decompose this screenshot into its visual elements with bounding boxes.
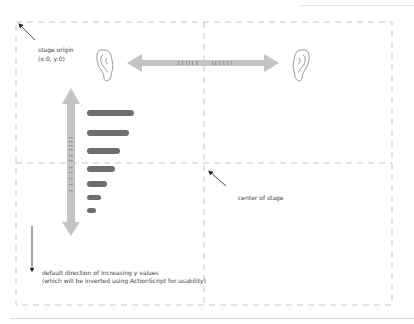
right-ear-icon <box>293 50 309 81</box>
center-pointer-arrow-icon <box>210 172 226 186</box>
volume-double-arrow-icon <box>62 88 80 236</box>
stage-origin-coords-label: (x:0, y:0) <box>38 55 65 63</box>
stage-origin-label: stage origin <box>38 46 74 54</box>
center-of-stage-label: center of stage <box>238 194 284 202</box>
y-direction-note-label: (which will be inverted using ActionScri… <box>42 277 206 285</box>
volume-bar <box>87 181 107 187</box>
volume-bar <box>87 130 129 136</box>
volume-bar <box>87 166 115 172</box>
volume-bar <box>87 148 120 154</box>
volume-bar <box>87 110 134 116</box>
left-ear-icon <box>97 50 113 81</box>
volume-bar <box>87 208 96 213</box>
volume-bars <box>87 110 134 213</box>
pan-double-arrow-icon <box>127 54 279 72</box>
y-direction-label: default direction of increasing y values <box>42 269 159 277</box>
volume-bar <box>87 195 101 200</box>
origin-pointer-arrow-icon <box>20 25 35 40</box>
